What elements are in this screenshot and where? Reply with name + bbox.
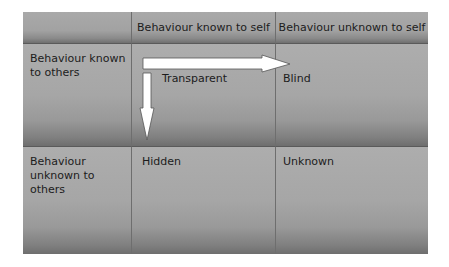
quadrant-unknown-label: Unknown	[283, 155, 334, 169]
row-header-known-to-others-label: Behaviour known to others	[30, 52, 126, 80]
quadrant-transparent: Transparent	[132, 44, 276, 147]
quadrant-blind-label: Blind	[283, 72, 311, 86]
row-header-unknown-to-others: Behaviour unknown to others	[23, 147, 132, 254]
row-header-known-to-others: Behaviour known to others	[23, 44, 132, 147]
quadrant-hidden: Hidden	[132, 147, 276, 254]
header-corner-cell	[23, 12, 132, 44]
header-known-to-self: Behaviour known to self	[132, 12, 276, 44]
quadrant-hidden-label: Hidden	[142, 155, 181, 169]
header-known-to-self-label: Behaviour known to self	[137, 21, 270, 35]
johari-window-grid: Behaviour known to self Behaviour unknow…	[23, 12, 428, 254]
quadrant-unknown: Unknown	[276, 147, 428, 254]
header-unknown-to-self-label: Behaviour unknown to self	[279, 21, 426, 35]
header-unknown-to-self: Behaviour unknown to self	[276, 12, 428, 44]
row-header-unknown-to-others-label: Behaviour unknown to others	[30, 155, 132, 197]
quadrant-blind: Blind	[276, 44, 428, 147]
quadrant-transparent-label: Transparent	[162, 72, 227, 86]
